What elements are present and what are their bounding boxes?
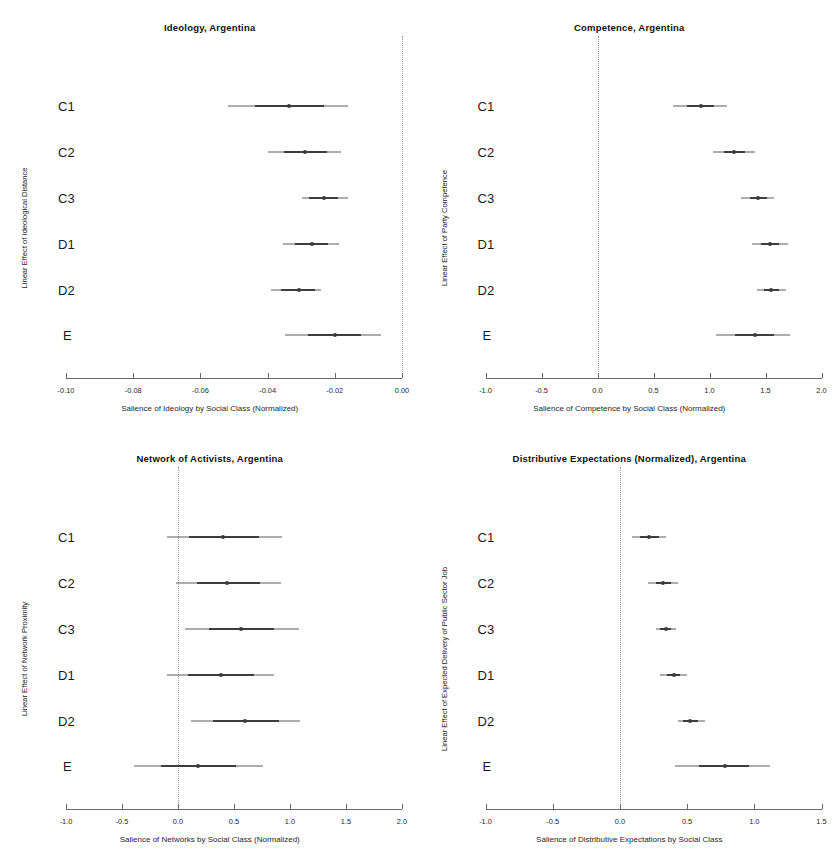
category-label-d1: D1 [58, 236, 75, 251]
panel-ideology-argentina: Ideology, ArgentinaLinear Effect of Ideo… [0, 0, 420, 431]
x-axis-tick-label: 0.5 [682, 817, 692, 826]
panel-network-of-activists-argentina: Network of Activists, ArgentinaLinear Ef… [0, 431, 420, 862]
x-axis-tick [122, 804, 123, 809]
plot-area: C1C2C3D1D2E-1.0-0.50.00.51.01.52.0Salien… [0, 431, 420, 862]
x-axis-tick [346, 804, 347, 809]
category-label-d1: D1 [478, 667, 495, 682]
point-estimate-c1 [287, 104, 291, 108]
point-estimate-c1 [699, 104, 703, 108]
zero-reference-line [178, 467, 179, 809]
category-label-c3: C3 [478, 622, 495, 637]
x-axis-label: Salience of Networks by Social Class (No… [0, 835, 420, 844]
x-axis-tick [66, 373, 67, 378]
point-estimate-c3 [322, 196, 326, 200]
zero-reference-line [598, 36, 599, 378]
plot-area: C1C2C3D1D2E-1.0-0.50.00.51.01.52.0Salien… [420, 0, 839, 431]
point-estimate-c1 [221, 535, 225, 539]
category-label-c3: C3 [478, 191, 495, 206]
point-estimate-c2 [661, 581, 665, 585]
panel-competence-argentina: Competence, ArgentinaLinear Effect of Pa… [420, 0, 839, 431]
x-axis-tick-label: 0.0 [592, 386, 602, 395]
plot-area: C1C2C3D1D2E-1.0-0.50.00.51.01.5Salience … [420, 431, 839, 862]
category-label-c1: C1 [478, 99, 495, 114]
x-axis-tick-label: 0.0 [173, 817, 183, 826]
category-label-c2: C2 [58, 145, 75, 160]
x-axis-tick [66, 804, 67, 809]
x-axis-tick-label: -0.5 [546, 817, 559, 826]
x-axis-tick-label: 2.0 [397, 817, 407, 826]
category-label-c3: C3 [58, 622, 75, 637]
category-label-e: E [483, 328, 492, 343]
category-label-d2: D2 [478, 282, 495, 297]
point-estimate-c3 [756, 196, 760, 200]
x-axis-label: Salience of Ideology by Social Class (No… [0, 404, 420, 413]
x-axis-tick-label: -0.5 [535, 386, 548, 395]
x-axis-tick-label: -1.0 [60, 817, 73, 826]
x-axis-tick-label: -0.02 [326, 386, 343, 395]
x-axis-tick-label: 0.00 [395, 386, 409, 395]
x-axis-tick [687, 804, 688, 809]
x-axis-tick-label: -1.0 [479, 386, 492, 395]
x-axis-label: Salience of Distributive Expectations by… [420, 835, 839, 844]
x-axis-tick-label: 1.0 [285, 817, 295, 826]
x-axis [486, 809, 822, 810]
x-axis-tick-label: -0.08 [125, 386, 142, 395]
category-label-d2: D2 [58, 713, 75, 728]
x-axis-tick [754, 804, 755, 809]
point-estimate-d2 [297, 288, 301, 292]
x-axis-tick [335, 373, 336, 378]
x-axis-tick [200, 373, 201, 378]
point-estimate-c3 [239, 627, 243, 631]
category-label-c2: C2 [478, 576, 495, 591]
x-axis-tick-label: -0.5 [116, 817, 129, 826]
x-axis [66, 809, 402, 810]
category-label-e: E [483, 759, 492, 774]
x-axis-tick-label: -0.04 [259, 386, 276, 395]
x-axis-tick [402, 373, 403, 378]
x-axis-tick [553, 804, 554, 809]
x-axis-tick [542, 373, 543, 378]
point-estimate-c1 [647, 535, 651, 539]
x-axis-tick-label: 1.5 [341, 817, 351, 826]
zero-reference-line [402, 36, 403, 378]
point-estimate-e [753, 333, 757, 337]
plot-area: C1C2C3D1D2E-0.10-0.08-0.06-0.04-0.020.00… [0, 0, 420, 431]
x-axis [486, 378, 822, 379]
category-label-c1: C1 [58, 530, 75, 545]
x-axis-tick [234, 804, 235, 809]
x-axis-tick [654, 373, 655, 378]
category-label-c2: C2 [478, 145, 495, 160]
x-axis-tick [402, 804, 403, 809]
point-estimate-d2 [688, 719, 692, 723]
category-label-c3: C3 [58, 191, 75, 206]
x-axis-tick [178, 804, 179, 809]
category-label-d2: D2 [478, 713, 495, 728]
x-axis-tick [486, 373, 487, 378]
x-axis-tick [598, 373, 599, 378]
point-estimate-c2 [732, 150, 736, 154]
point-estimate-c2 [303, 150, 307, 154]
x-axis-tick-label: 0.5 [229, 817, 239, 826]
point-estimate-d1 [219, 673, 223, 677]
category-label-c1: C1 [478, 530, 495, 545]
x-axis-tick [486, 804, 487, 809]
category-label-c1: C1 [58, 99, 75, 114]
category-label-d2: D2 [58, 282, 75, 297]
x-axis-tick-label: 1.5 [816, 817, 826, 826]
x-axis [66, 378, 402, 379]
category-label-e: E [63, 759, 72, 774]
category-label-e: E [63, 328, 72, 343]
x-axis-tick-label: 1.0 [749, 817, 759, 826]
point-estimate-d2 [243, 719, 247, 723]
point-estimate-d1 [310, 242, 314, 246]
x-axis-tick [620, 804, 621, 809]
zero-reference-line [620, 467, 621, 809]
x-axis-tick-label: 0.5 [648, 386, 658, 395]
category-label-d1: D1 [478, 236, 495, 251]
x-axis-tick [290, 804, 291, 809]
x-axis-tick-label: 2.0 [816, 386, 826, 395]
point-estimate-d1 [672, 673, 676, 677]
x-axis-tick-label: 0.0 [615, 817, 625, 826]
x-axis-tick-label: -0.10 [58, 386, 75, 395]
point-estimate-c2 [225, 581, 229, 585]
